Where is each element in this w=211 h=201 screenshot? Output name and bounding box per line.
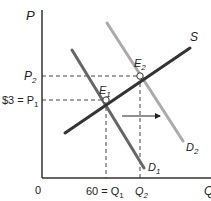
p1-label: $3 = P1	[2, 94, 39, 109]
equilibrium-point-e2	[137, 73, 143, 79]
supply-demand-diagram: P Q 0 P2 $3 = P1 60 = Q1 Q2 S D1 D2 E1 E…	[0, 0, 211, 201]
y-axis-label: P	[26, 8, 35, 23]
supply-label: S	[190, 30, 198, 44]
origin-label: 0	[35, 184, 41, 196]
d2-label: D2	[186, 141, 199, 156]
q1-label: 60 = Q1	[86, 185, 124, 200]
p2-label: P2	[24, 69, 37, 85]
q2-label: Q2	[135, 185, 149, 200]
x-axis-label: Q	[204, 184, 211, 198]
d1-label: D1	[148, 161, 160, 176]
